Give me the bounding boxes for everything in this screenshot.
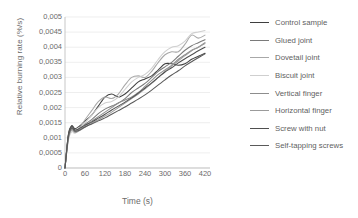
- x-axis-tick-labels: 060120180240300360420: [65, 170, 210, 184]
- plot-svg: [65, 17, 210, 168]
- legend-label: Horizontal finger: [275, 106, 332, 115]
- x-axis-tick-label: 180: [119, 170, 132, 178]
- legend-label: Vertical finger: [275, 89, 322, 98]
- y-axis-tick-label: 0,0045: [39, 28, 62, 36]
- y-axis-tick-label: 0,004: [43, 43, 62, 51]
- legend-color-swatch: [250, 128, 269, 129]
- series-line: [65, 53, 205, 168]
- y-axis-tick-label: 0,003: [43, 74, 62, 82]
- legend-label: Self-tapping screws: [275, 141, 343, 150]
- y-axis-tick-label: 0,001: [43, 134, 62, 142]
- y-axis-tick-label: 0,0005: [39, 149, 62, 157]
- x-axis-tick-label: 240: [139, 170, 152, 178]
- plot-area: [65, 17, 210, 168]
- legend: Control sampleGlued jointDovetail jointB…: [250, 14, 358, 155]
- burning-rate-line-chart: Relative burning rate (%/s) 00,00050,001…: [0, 0, 358, 218]
- series-line: [65, 54, 205, 168]
- legend-label: Glued joint: [275, 36, 312, 45]
- legend-color-swatch: [250, 40, 269, 41]
- legend-item[interactable]: Screw with nut: [250, 120, 358, 138]
- legend-item[interactable]: Dovetail joint: [250, 49, 358, 67]
- legend-item[interactable]: Glued joint: [250, 32, 358, 50]
- legend-label: Dovetail joint: [275, 53, 320, 62]
- x-axis-tick-label: 120: [99, 170, 112, 178]
- y-axis-tick-label: 0,005: [43, 13, 62, 21]
- legend-item[interactable]: Horizontal finger: [250, 102, 358, 120]
- legend-item[interactable]: Biscuit joint: [250, 67, 358, 85]
- legend-label: Screw with nut: [275, 124, 326, 133]
- x-axis-tick-label: 0: [63, 170, 67, 178]
- legend-color-swatch: [250, 110, 269, 111]
- legend-color-swatch: [250, 75, 269, 76]
- x-axis-title: Time (s): [65, 196, 210, 206]
- legend-color-swatch: [250, 57, 269, 58]
- legend-label: Control sample: [275, 18, 327, 27]
- x-axis-tick-label: 360: [179, 170, 192, 178]
- y-axis-tick-label: 0,0035: [39, 59, 62, 67]
- series-line: [65, 43, 205, 168]
- x-axis-tick-label: 60: [81, 170, 89, 178]
- legend-item[interactable]: Self-tapping screws: [250, 137, 358, 155]
- legend-color-swatch: [250, 93, 269, 94]
- legend-item[interactable]: Control sample: [250, 14, 358, 32]
- legend-label: Biscuit joint: [275, 71, 314, 80]
- legend-color-swatch: [250, 145, 269, 146]
- y-axis-tick-label: 0,002: [43, 104, 62, 112]
- legend-item[interactable]: Vertical finger: [250, 84, 358, 102]
- y-axis-tick-label: 0,0025: [39, 89, 62, 97]
- y-axis-tick-label: 0,0015: [39, 119, 62, 127]
- legend-color-swatch: [250, 22, 269, 23]
- y-axis-tick-labels: 00,00050,0010,00150,0020,00250,0030,0035…: [18, 0, 62, 218]
- x-axis-tick-label: 300: [159, 170, 172, 178]
- y-axis-tick-label: 0: [58, 164, 62, 172]
- x-axis-tick-label: 420: [199, 170, 212, 178]
